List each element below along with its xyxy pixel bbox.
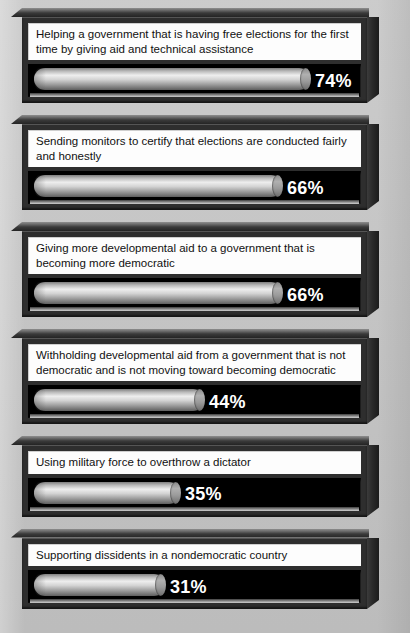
bar-end-cap <box>272 175 283 197</box>
panel-top-bevel <box>11 529 369 538</box>
percentage-label: 44% <box>209 391 246 412</box>
panel-face: Withholding developmental aid from a gov… <box>22 338 367 424</box>
bar-track: 31% <box>28 570 361 603</box>
panel-face: Using military force to overthrow a dict… <box>22 445 367 517</box>
panel-3d-body: Supporting dissidents in a nondemocratic… <box>22 529 367 610</box>
track-ledge <box>30 507 359 511</box>
panel-top-bevel <box>11 8 369 17</box>
track-ledge <box>30 200 359 204</box>
bar-cylinder <box>34 282 282 304</box>
bar-cylinder <box>34 68 310 90</box>
bar-left-shading <box>34 175 46 197</box>
percentage-label: 31% <box>170 576 207 597</box>
bar-end-cap <box>194 389 205 411</box>
question-text: Using military force to overthrow a dict… <box>28 451 361 474</box>
bar-left-shading <box>34 389 46 411</box>
panel-top-bevel <box>11 115 369 124</box>
panel-top-bevel <box>11 222 369 231</box>
result-panel: Helping a government that is having free… <box>10 8 404 103</box>
panel-side-face <box>367 445 379 517</box>
bar-left-shading <box>34 68 46 90</box>
bar-end-cap <box>155 574 166 596</box>
track-ledge <box>30 414 359 418</box>
panel-side-face <box>367 231 379 317</box>
panel-side-face <box>367 124 379 210</box>
panel-top-bevel <box>11 436 369 445</box>
panel-3d-body: Sending monitors to certify that electio… <box>22 115 367 210</box>
question-text: Supporting dissidents in a nondemocratic… <box>28 544 361 567</box>
question-text: Sending monitors to certify that electio… <box>28 130 361 167</box>
track-ledge <box>30 93 359 97</box>
result-panel: Sending monitors to certify that electio… <box>10 115 404 210</box>
panel-3d-body: Withholding developmental aid from a gov… <box>22 329 367 424</box>
panel-side-face <box>367 538 379 610</box>
percentage-label: 35% <box>185 484 222 505</box>
bar-track: 44% <box>28 385 361 418</box>
panel-face: Sending monitors to certify that electio… <box>22 124 367 210</box>
bar-end-cap <box>272 282 283 304</box>
bar-end-cap <box>170 482 181 504</box>
panel-face: Giving more developmental aid to a gover… <box>22 231 367 317</box>
panel-3d-body: Using military force to overthrow a dict… <box>22 436 367 517</box>
bar-track: 66% <box>28 171 361 204</box>
bar-left-shading <box>34 282 46 304</box>
bar-left-shading <box>34 574 46 596</box>
bar-track: 66% <box>28 278 361 311</box>
panel-top-bevel <box>11 329 369 338</box>
bar-left-shading <box>34 482 46 504</box>
track-ledge <box>30 599 359 603</box>
percentage-label: 66% <box>287 177 324 198</box>
bar-cylinder <box>34 574 165 596</box>
result-panel: Using military force to overthrow a dict… <box>10 436 404 517</box>
panel-3d-body: Giving more developmental aid to a gover… <box>22 222 367 317</box>
result-panel: Giving more developmental aid to a gover… <box>10 222 404 317</box>
track-ledge <box>30 307 359 311</box>
question-text: Helping a government that is having free… <box>28 23 361 60</box>
panel-3d-body: Helping a government that is having free… <box>22 8 367 103</box>
percentage-label: 74% <box>315 70 352 91</box>
bar-track: 35% <box>28 478 361 511</box>
panel-side-face <box>367 17 379 103</box>
panel-face: Helping a government that is having free… <box>22 17 367 103</box>
question-text: Giving more developmental aid to a gover… <box>28 237 361 274</box>
percentage-label: 66% <box>287 284 324 305</box>
question-text: Withholding developmental aid from a gov… <box>28 344 361 381</box>
results-panel-stack: Helping a government that is having free… <box>0 0 410 633</box>
result-panel: Supporting dissidents in a nondemocratic… <box>10 529 404 610</box>
bar-cylinder <box>34 175 282 197</box>
panel-face: Supporting dissidents in a nondemocratic… <box>22 538 367 610</box>
bar-cylinder <box>34 482 180 504</box>
bar-end-cap <box>300 68 311 90</box>
result-panel: Withholding developmental aid from a gov… <box>10 329 404 424</box>
bar-cylinder <box>34 389 204 411</box>
bar-track: 74% <box>28 64 361 97</box>
panel-side-face <box>367 338 379 424</box>
